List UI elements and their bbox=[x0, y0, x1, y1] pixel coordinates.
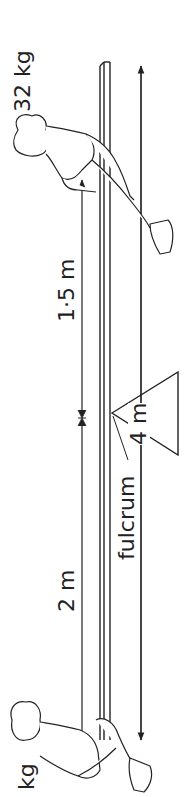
left-distance-label: 2 m bbox=[56, 570, 78, 612]
beam-length-label: 4 m bbox=[128, 403, 150, 445]
right-distance-label: 1·5 m bbox=[56, 259, 78, 322]
person-right-icon bbox=[14, 115, 173, 254]
diagram-drawing bbox=[0, 0, 193, 797]
fulcrum-label: fulcrum bbox=[116, 476, 138, 560]
lever-diagram: 32 kg kg 1·5 m 2 m 4 m fulcrum bbox=[0, 0, 193, 797]
left-mass-label: kg bbox=[16, 763, 38, 790]
right-mass-label: 32 kg bbox=[12, 50, 34, 112]
